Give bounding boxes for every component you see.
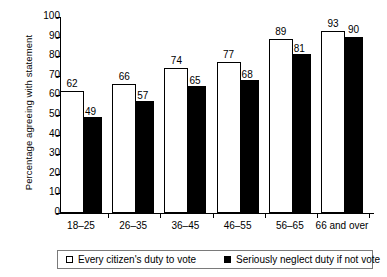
bar-value-label: 65 (189, 75, 200, 86)
y-tick-label: 80 (8, 50, 60, 60)
x-tick-mark (213, 214, 214, 218)
y-tick-label: 30 (8, 148, 60, 158)
bar-value-label: 68 (242, 69, 253, 80)
bar-light (217, 62, 241, 213)
bar-value-label: 57 (137, 90, 148, 101)
bar-dark (345, 37, 363, 213)
y-tick-label: 100 (8, 11, 60, 21)
y-tick-label: 0 (8, 207, 60, 217)
bar-light (321, 31, 345, 213)
x-tick-label: 66 and over (302, 220, 382, 231)
bar-dark (241, 80, 259, 213)
chart-legend: Every citizen's duty to vote Seriously n… (57, 250, 373, 269)
bar-value-label: 89 (273, 26, 289, 37)
y-axis-ticks: 1009080706050403020100 (0, 0, 60, 277)
bar-value-label: 77 (221, 49, 237, 60)
x-tick-mark (160, 214, 161, 218)
y-tick-label: 60 (8, 89, 60, 99)
bar-value-label: 49 (85, 106, 96, 117)
bar-light (112, 84, 136, 213)
x-tick-mark (369, 214, 370, 218)
filled-square-swatch-icon (224, 256, 231, 263)
bar-chart: Percentage agreeing with statement 10090… (0, 0, 387, 277)
x-tick-mark (108, 214, 109, 218)
x-tick-mark (265, 214, 266, 218)
x-tick-mark (317, 214, 318, 218)
x-axis-line (60, 213, 374, 214)
y-tick-label: 50 (8, 109, 60, 119)
bar-value-label: 66 (116, 71, 132, 82)
legend-item-label: Every citizen's duty to vote (78, 254, 196, 265)
bar-light (60, 91, 84, 213)
legend-item-neglect-duty: Seriously neglect duty if not vote (224, 254, 380, 265)
legend-item-duty-to-vote: Every citizen's duty to vote (66, 254, 196, 265)
bar-light (164, 68, 188, 213)
legend-item-label: Seriously neglect duty if not vote (236, 254, 380, 265)
bar-dark (188, 86, 206, 213)
y-tick-label: 10 (8, 187, 60, 197)
y-tick-label: 40 (8, 129, 60, 139)
bar-dark (293, 54, 311, 213)
y-tick-label: 20 (8, 168, 60, 178)
bar-dark (84, 117, 102, 213)
bar-value-label: 62 (64, 78, 80, 89)
open-square-swatch-icon (66, 256, 73, 263)
bar-value-label: 81 (294, 43, 305, 54)
bar-dark (136, 101, 154, 213)
y-tick-label: 70 (8, 70, 60, 80)
y-tick-label: 90 (8, 31, 60, 41)
bar-value-label: 93 (325, 18, 341, 29)
bar-value-label: 90 (348, 24, 359, 35)
bar-value-label: 74 (168, 55, 184, 66)
bar-light (269, 39, 293, 213)
